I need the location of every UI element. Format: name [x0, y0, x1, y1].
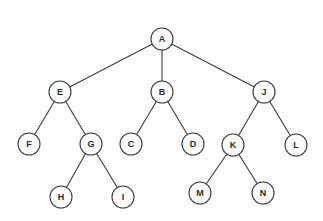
tree-diagram-canvas: AEBJFGCDKLHIMN — [0, 0, 323, 221]
tree-node-label-M: M — [196, 188, 204, 198]
tree-node-label-C: C — [128, 139, 135, 149]
tree-node-label-H: H — [58, 192, 65, 202]
tree-node-K: K — [222, 134, 244, 156]
tree-node-C: C — [120, 133, 142, 155]
tree-node-A: A — [151, 28, 173, 50]
tree-edge-A-J — [162, 39, 264, 92]
tree-diagram: AEBJFGCDKLHIMN — [0, 0, 323, 221]
tree-node-H: H — [50, 186, 72, 208]
tree-node-D: D — [182, 133, 204, 155]
tree-edge-A-E — [60, 39, 162, 92]
tree-node-label-A: A — [159, 34, 166, 44]
tree-node-I: I — [112, 186, 134, 208]
tree-node-label-I: I — [122, 192, 125, 202]
tree-node-label-K: K — [230, 140, 237, 150]
tree-node-E: E — [49, 81, 71, 103]
tree-node-label-D: D — [190, 139, 197, 149]
tree-node-L: L — [285, 134, 307, 156]
tree-node-label-L: L — [293, 140, 299, 150]
tree-node-label-F: F — [26, 139, 32, 149]
tree-edges-layer — [29, 39, 296, 197]
tree-node-label-B: B — [159, 87, 166, 97]
tree-node-B: B — [151, 81, 173, 103]
tree-node-F: F — [18, 133, 40, 155]
tree-node-label-N: N — [260, 188, 267, 198]
tree-node-G: G — [80, 133, 102, 155]
tree-node-label-E: E — [57, 87, 63, 97]
tree-node-M: M — [189, 182, 211, 204]
tree-node-label-J: J — [261, 87, 266, 97]
tree-node-label-G: G — [87, 139, 94, 149]
tree-node-J: J — [253, 81, 275, 103]
tree-node-N: N — [252, 182, 274, 204]
